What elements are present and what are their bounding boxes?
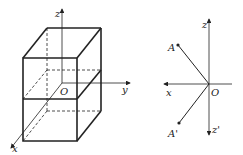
label-origin: O — [60, 86, 68, 97]
label-a-prime: A' — [167, 128, 178, 139]
label-y: y — [121, 84, 128, 95]
label-x-right: x — [166, 87, 172, 98]
label-z: z — [54, 8, 61, 19]
x-axis — [11, 83, 62, 148]
segment-oa — [178, 45, 209, 84]
point-a — [176, 43, 179, 46]
cuboid-figure — [11, 9, 130, 148]
label-x: x — [12, 143, 18, 154]
label-origin-right: O — [211, 87, 219, 98]
label-z-prime: z' — [211, 124, 220, 135]
label-z-right: z — [201, 19, 208, 30]
point-a-prime — [177, 121, 180, 124]
diagram-canvas: z y x O z z' x O A A' — [0, 0, 243, 155]
segment-oa-prime — [179, 84, 209, 123]
reflection-figure — [164, 19, 232, 135]
label-a: A — [167, 42, 175, 53]
axes-left — [11, 9, 130, 148]
